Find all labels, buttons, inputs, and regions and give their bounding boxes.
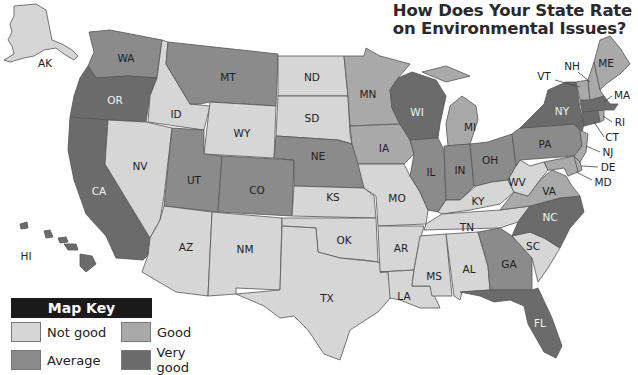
label-MO: MO: [388, 192, 405, 204]
label-OH: OH: [482, 154, 498, 166]
label-NV: NV: [132, 160, 148, 172]
swatch-good: [121, 322, 151, 342]
label-SC: SC: [526, 240, 540, 252]
label-CT: CT: [605, 131, 619, 143]
label-IN: IN: [455, 164, 466, 176]
label-MS: MS: [426, 270, 442, 282]
swatch-average: [11, 350, 41, 370]
label-UT: UT: [187, 174, 202, 186]
key-item-good: Good: [121, 322, 221, 342]
key-item-not-good: Not good: [11, 322, 121, 342]
label-KS: KS: [326, 191, 340, 203]
state-FL[interactable]: [460, 288, 562, 358]
label-ND: ND: [304, 71, 320, 83]
state-HI[interactable]: [20, 222, 96, 272]
label-OK: OK: [336, 234, 352, 246]
label-WI: WI: [410, 106, 423, 118]
label-MT: MT: [220, 71, 236, 83]
map-key-title: Map Key: [11, 298, 152, 318]
label-MI: MI: [464, 121, 476, 133]
label-VT: VT: [537, 70, 551, 82]
key-label-very-good: Very good: [157, 345, 221, 375]
label-RI: RI: [615, 116, 625, 128]
label-AZ: AZ: [179, 241, 193, 253]
state-AK[interactable]: [4, 4, 78, 62]
label-SD: SD: [305, 112, 320, 124]
key-label-average: Average: [47, 353, 100, 368]
label-WY: WY: [234, 127, 251, 139]
label-AR: AR: [394, 242, 408, 254]
leader-line-ct: [594, 122, 604, 137]
label-CA: CA: [92, 185, 107, 197]
key-item-very-good: Very good: [121, 345, 221, 375]
label-TX: TX: [319, 292, 334, 304]
map-key: Map Key Not good Good Average Very good: [11, 298, 221, 375]
label-FL: FL: [534, 317, 546, 329]
label-DE: DE: [601, 161, 616, 173]
state-NY[interactable]: [520, 82, 584, 132]
label-NM: NM: [237, 243, 254, 255]
label-NY: NY: [555, 105, 570, 117]
label-AL: AL: [462, 263, 475, 275]
label-VA: VA: [542, 185, 557, 197]
key-label-not-good: Not good: [47, 325, 106, 340]
label-ID: ID: [170, 108, 181, 120]
label-IA: IA: [379, 142, 390, 154]
swatch-not-good: [11, 322, 41, 342]
leader-line-nj: [586, 146, 600, 152]
label-WV: WV: [508, 176, 526, 188]
label-KY: KY: [472, 195, 486, 207]
label-ME: ME: [598, 57, 614, 69]
label-GA: GA: [501, 258, 517, 270]
label-NC: NC: [542, 211, 557, 223]
label-NE: NE: [311, 150, 326, 162]
swatch-very-good: [121, 350, 151, 370]
state-CT[interactable]: [582, 110, 600, 126]
leader-line-md: [576, 172, 592, 180]
label-PA: PA: [539, 138, 553, 150]
label-WA: WA: [118, 52, 136, 64]
label-AK: AK: [38, 57, 53, 69]
label-LA: LA: [397, 290, 411, 302]
label-NH: NH: [564, 60, 580, 72]
label-IL: IL: [427, 166, 436, 178]
label-NJ: NJ: [603, 146, 614, 158]
label-MA: MA: [614, 89, 631, 101]
label-HI: HI: [21, 250, 32, 262]
label-OR: OR: [107, 94, 123, 106]
key-item-average: Average: [11, 345, 121, 375]
key-label-good: Good: [157, 325, 191, 340]
label-CO: CO: [249, 184, 265, 196]
label-TN: TN: [459, 221, 474, 233]
label-MD: MD: [594, 176, 611, 188]
leader-line-de: [581, 166, 598, 167]
label-MN: MN: [360, 88, 377, 100]
